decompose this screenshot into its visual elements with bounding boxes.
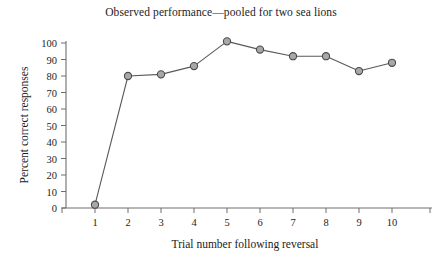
y-tick-label: 40 bbox=[47, 137, 58, 148]
data-point bbox=[388, 59, 395, 66]
y-tick-label: 100 bbox=[41, 38, 57, 49]
series-line bbox=[95, 41, 392, 204]
y-tick-label: 20 bbox=[47, 170, 58, 181]
y-tick-label: 50 bbox=[47, 121, 58, 132]
y-axis-ticks bbox=[61, 43, 66, 208]
data-point bbox=[223, 38, 230, 45]
y-tick-label: 70 bbox=[47, 88, 58, 99]
x-axis-ticks bbox=[62, 208, 430, 213]
x-axis-title: Trial number following reversal bbox=[172, 238, 319, 251]
chart-figure: Observed performance—pooled for two sea … bbox=[0, 0, 442, 260]
y-tick-label: 0 bbox=[52, 203, 57, 214]
plot-area: 100 90 80 70 60 50 40 30 20 10 0 1 2 3 bbox=[0, 0, 442, 260]
data-point bbox=[190, 63, 197, 70]
data-point bbox=[322, 53, 329, 60]
data-point bbox=[124, 72, 131, 79]
x-tick-label: 4 bbox=[191, 217, 197, 228]
x-tick-label: 9 bbox=[356, 217, 361, 228]
x-tick-label: 8 bbox=[323, 217, 328, 228]
data-point bbox=[256, 46, 263, 53]
data-point bbox=[355, 67, 362, 74]
y-tick-label: 80 bbox=[47, 71, 58, 82]
x-tick-label: 6 bbox=[257, 217, 262, 228]
x-tick-label: 10 bbox=[387, 217, 398, 228]
y-tick-label: 30 bbox=[47, 154, 58, 165]
x-tick-label: 3 bbox=[158, 217, 163, 228]
y-axis-title: Percent correct responses bbox=[18, 66, 31, 183]
x-tick-label: 7 bbox=[290, 217, 295, 228]
y-tick-label: 90 bbox=[47, 55, 58, 66]
series-markers bbox=[91, 38, 395, 209]
data-point bbox=[289, 53, 296, 60]
x-tick-label: 1 bbox=[92, 217, 97, 228]
x-tick-label: 2 bbox=[125, 217, 130, 228]
y-tick-label: 60 bbox=[47, 104, 58, 115]
data-point bbox=[91, 201, 98, 208]
y-tick-label: 10 bbox=[47, 187, 58, 198]
data-point bbox=[157, 71, 164, 78]
x-tick-label: 5 bbox=[224, 217, 229, 228]
